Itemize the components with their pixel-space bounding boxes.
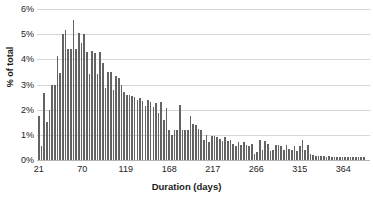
bar: [278, 145, 280, 160]
bar: [43, 93, 45, 160]
bar: [99, 52, 101, 160]
bar: [83, 34, 85, 160]
bar: [291, 150, 293, 160]
bar: [238, 142, 240, 160]
bar: [121, 85, 123, 161]
histogram-chart: % of total 0%1%2%3%4%5%6% 21701191682172…: [0, 0, 373, 218]
bar: [270, 151, 272, 160]
bar: [352, 157, 354, 160]
bar: [62, 34, 64, 160]
bar: [326, 157, 328, 160]
bar: [46, 122, 48, 160]
bar: [139, 98, 141, 160]
bar: [208, 142, 210, 160]
bar: [283, 150, 285, 160]
plot-area: [37, 9, 370, 160]
bar: [155, 103, 157, 160]
bar: [243, 142, 245, 160]
x-axis-title: Duration (days): [0, 181, 373, 192]
bar: [51, 85, 53, 161]
bar: [355, 157, 357, 160]
bar: [91, 51, 93, 160]
bar: [280, 146, 282, 160]
bar: [323, 156, 325, 160]
bar: [246, 145, 248, 160]
bar: [251, 144, 253, 160]
bar: [363, 157, 365, 160]
bar: [227, 141, 229, 160]
bar: [179, 105, 181, 160]
bar: [272, 150, 274, 160]
x-axis-tick-label: 21: [19, 164, 59, 175]
bar: [232, 144, 234, 160]
bar: [137, 100, 139, 160]
bar: [310, 154, 312, 160]
bar: [240, 145, 242, 160]
bar: [259, 140, 261, 160]
bar: [219, 139, 221, 160]
bar: [67, 49, 69, 160]
bar: [78, 33, 80, 160]
bar: [275, 145, 277, 160]
bar: [123, 92, 125, 160]
bar: [126, 95, 128, 160]
x-axis-tick-label: 266: [236, 164, 276, 175]
bar: [286, 145, 288, 160]
bar: [166, 108, 168, 160]
bar: [307, 145, 309, 160]
bar: [147, 100, 149, 160]
bar: [107, 72, 109, 160]
bar: [86, 52, 88, 160]
bar: [195, 125, 197, 160]
bar: [206, 135, 208, 160]
x-axis-tick-label: 364: [323, 164, 363, 175]
bar: [54, 85, 56, 161]
bar: [73, 20, 75, 160]
bar: [336, 157, 338, 160]
x-axis-tick-label: 70: [62, 164, 102, 175]
bar: [264, 141, 266, 160]
bar: [312, 155, 314, 160]
x-axis-tick-label: 168: [149, 164, 189, 175]
bar: [168, 130, 170, 160]
bar: [160, 102, 162, 160]
bar: [302, 140, 304, 160]
bar: [347, 157, 349, 160]
bar: [203, 140, 205, 160]
bar: [81, 43, 83, 160]
bar: [331, 157, 333, 160]
bar: [65, 30, 67, 160]
y-axis-tick-label: 4%: [10, 55, 34, 64]
bar: [267, 144, 269, 160]
y-axis-tick-label: 6%: [10, 5, 34, 14]
y-axis-tick-label: 1%: [10, 131, 34, 140]
bar: [360, 157, 362, 160]
bar: [89, 74, 91, 160]
bar: [59, 73, 61, 160]
bar: [320, 156, 322, 160]
bar: [198, 129, 200, 160]
bar: [315, 156, 317, 160]
bar: [97, 74, 99, 160]
bar: [318, 156, 320, 160]
gridline: [37, 160, 370, 161]
bar: [158, 113, 160, 160]
bar: [94, 53, 96, 160]
bar: [49, 110, 51, 160]
bar: [105, 88, 107, 160]
bar: [222, 141, 224, 160]
bar: [115, 76, 117, 160]
bar: [288, 149, 290, 160]
x-axis-tick-label: 119: [106, 164, 146, 175]
bar: [230, 140, 232, 160]
bar: [350, 157, 352, 160]
bar: [142, 101, 144, 160]
bar: [334, 157, 336, 160]
bar: [190, 116, 192, 160]
bar: [256, 152, 258, 160]
bar: [235, 146, 237, 160]
bar: [358, 157, 360, 160]
bar: [75, 49, 77, 160]
bar: [38, 116, 40, 160]
bar: [131, 96, 133, 160]
